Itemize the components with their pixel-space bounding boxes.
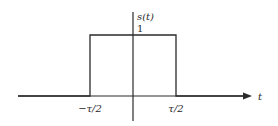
x-axis-arrowhead xyxy=(243,93,252,100)
y-axis-label: s(t) xyxy=(137,11,154,22)
y-tick-label-one: 1 xyxy=(137,23,143,34)
pulse-chart: t s(t) −τ/2 τ/2 1 xyxy=(0,0,278,126)
x-tick-label-half-tau: τ/2 xyxy=(168,103,183,114)
x-tick-label-neg-half-tau: −τ/2 xyxy=(78,103,102,114)
pulse-line xyxy=(18,35,244,96)
x-axis-label: t xyxy=(258,91,263,102)
